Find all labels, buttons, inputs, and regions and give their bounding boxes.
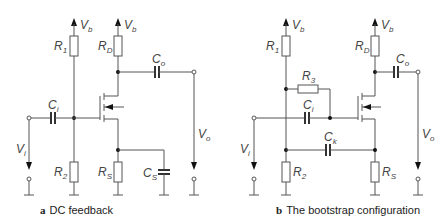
caption-a: aDC feedback <box>40 204 114 216</box>
label-ck: Ck <box>324 130 338 146</box>
input-terminal <box>27 116 31 120</box>
vi-arrow-b <box>251 162 257 170</box>
label-co: Co <box>152 52 166 68</box>
resistor-r2 <box>70 162 78 182</box>
source-node-b <box>373 148 377 152</box>
label-cs: CS <box>143 166 158 182</box>
label-r1-b: R1 <box>266 39 279 55</box>
label-r2: R2 <box>54 165 68 181</box>
caption-b: bThe bootstrap configuration <box>276 204 420 216</box>
label-r2-b: R2 <box>293 165 307 181</box>
resistor-rs-b <box>371 162 379 182</box>
output-terminal <box>192 70 196 74</box>
label-vb-2: Vb <box>124 18 137 34</box>
label-vi: Vi <box>16 142 26 158</box>
panel-a-dc-feedback: Vb R1 R2 Ci Vi Vb RD Co <box>16 18 211 216</box>
input-terminal-b <box>252 116 256 120</box>
label-rd-b: RD <box>355 39 370 55</box>
label-vb-b: Vb <box>292 18 305 34</box>
label-ci-b: Ci <box>303 98 314 114</box>
circuit-figure: Vb R1 R2 Ci Vi Vb RD Co <box>0 0 446 224</box>
r1-supply-arrow <box>71 18 77 36</box>
gate-node-b <box>328 116 332 120</box>
mosfet-icon-b <box>358 93 381 162</box>
label-vb: Vb <box>80 18 93 34</box>
resistor-r2-b <box>282 162 290 182</box>
resistor-rd-b <box>371 36 379 56</box>
label-vo-b: Vo <box>422 127 435 143</box>
label-rs: RS <box>98 165 113 181</box>
label-vb-b-2: Vb <box>381 18 394 34</box>
label-r1: R1 <box>54 39 67 55</box>
output-terminal-b <box>416 70 420 74</box>
label-r3: R3 <box>302 69 316 85</box>
label-vo: Vo <box>198 127 211 143</box>
panel-b-bootstrap: Vb R1 R3 Ci Vi Ck R2 <box>240 18 435 216</box>
label-vi-b: Vi <box>240 142 250 158</box>
vi-arrow <box>26 162 32 170</box>
resistor-rd <box>114 36 122 56</box>
mosfet-icon <box>100 93 124 162</box>
resistor-r1-b <box>282 36 290 56</box>
label-co-b: Co <box>396 52 410 68</box>
vo-arrow <box>191 162 197 170</box>
resistor-r3 <box>298 85 318 93</box>
label-rd: RD <box>98 39 113 55</box>
label-rs-b: RS <box>382 165 397 181</box>
label-ci: Ci <box>48 98 59 114</box>
resistor-rs <box>114 162 122 182</box>
vo-arrow-b <box>415 162 421 170</box>
resistor-r1 <box>70 36 78 56</box>
